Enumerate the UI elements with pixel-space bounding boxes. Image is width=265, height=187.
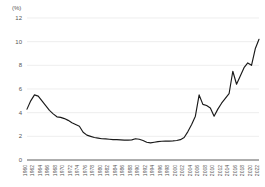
x-axis-tick-label: 1968	[52, 165, 58, 176]
x-axis-tick-label: 1972	[67, 165, 73, 176]
y-axis-tick-label: 8	[19, 62, 23, 68]
y-axis-tick-label: 10	[15, 39, 22, 45]
x-axis-tick-label: 1962	[29, 165, 35, 176]
x-axis-tick-label: 2016	[232, 165, 238, 176]
x-axis-tick-label: 2002	[179, 165, 185, 176]
x-axis-tick-labels: 1960196219641966196819701972197419761978…	[22, 165, 260, 176]
y-axis-tick-labels: 024681012	[15, 15, 22, 163]
x-axis-tick-label: 1964	[37, 165, 43, 176]
x-axis-tick-label: 2012	[217, 165, 223, 176]
x-axis-tick-label: 1996	[157, 165, 163, 176]
x-axis-tick-label: 2006	[194, 165, 200, 176]
x-axis-tick-label: 2022	[254, 165, 260, 176]
x-axis-tick-label: 1970	[59, 165, 65, 176]
x-axis-tick-label: 1982	[104, 165, 110, 176]
x-axis-tick-label: 2018	[239, 165, 245, 176]
data-series-line	[27, 39, 259, 143]
x-axis-tick-label: 1992	[142, 165, 148, 176]
x-axis-tick-label: 1980	[97, 165, 103, 176]
x-axis-tick-label: 1990	[134, 165, 140, 176]
x-axis-tick-label: 1986	[119, 165, 125, 176]
x-axis-tick-label: 1966	[44, 165, 50, 176]
x-axis-tick-label: 1998	[164, 165, 170, 176]
x-axis-tick-label: 1978	[89, 165, 95, 176]
y-axis-tick-label: 0	[19, 157, 23, 163]
line-chart: (%) 024681012 19601962196419661968197019…	[0, 0, 265, 187]
chart-plot-area: 024681012 196019621964196619681970197219…	[0, 0, 265, 187]
x-axis-tick-label: 2014	[224, 165, 230, 176]
x-axis-tick-label: 2000	[172, 165, 178, 176]
x-axis-tick-label: 1960	[22, 165, 28, 176]
x-axis-tick-label: 1984	[112, 165, 118, 176]
x-axis-tick-label: 1994	[149, 165, 155, 176]
x-axis-tick-label: 2020	[247, 165, 253, 176]
y-axis-tick-label: 12	[15, 15, 22, 21]
x-axis-tick-label: 2008	[202, 165, 208, 176]
x-axis-tick-label: 2004	[187, 165, 193, 176]
x-axis-tick-label: 1988	[127, 165, 133, 176]
y-axis-tick-label: 2	[19, 133, 23, 139]
x-axis-tick-label: 2010	[209, 165, 215, 176]
y-axis-tick-label: 6	[19, 86, 23, 92]
y-axis-tick-label: 4	[19, 110, 23, 116]
x-axis-tick-label: 1974	[74, 165, 80, 176]
x-axis-tick-label: 1976	[82, 165, 88, 176]
gridlines	[27, 18, 259, 136]
